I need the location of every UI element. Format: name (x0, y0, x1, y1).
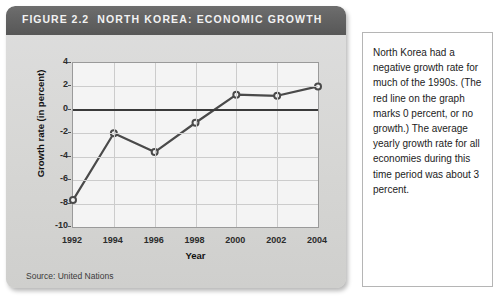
y-tick-label: -10 (42, 220, 68, 230)
source-note: Source: United Nations (26, 271, 113, 281)
figure-header-bar: FIGURE 2.2NORTH KOREA: ECONOMIC GROWTH (6, 6, 346, 35)
x-tick-label: 2004 (297, 235, 337, 245)
plot-area (72, 62, 319, 228)
y-tick-mark (68, 226, 71, 227)
y-axis-tick-labels: 420-2-4-6-8-10 (36, 62, 68, 228)
data-point-marker (70, 197, 76, 203)
y-tick-mark (68, 132, 71, 133)
y-tick-mark (68, 109, 71, 110)
y-tick-mark (68, 85, 71, 86)
x-tick-label: 1992 (52, 235, 92, 245)
gridline-vertical (114, 63, 115, 227)
x-tick-label: 1996 (134, 235, 174, 245)
gridline-vertical (196, 63, 197, 227)
gridline-vertical (277, 63, 278, 227)
y-tick-mark (68, 156, 71, 157)
y-tick-label: 0 (42, 103, 68, 113)
x-axis-title: Year (72, 250, 319, 261)
y-tick-label: -4 (42, 150, 68, 160)
y-tick-label: 4 (42, 56, 68, 66)
y-tick-label: 2 (42, 79, 68, 89)
figure-title: NORTH KOREA: ECONOMIC GROWTH (97, 13, 322, 25)
figure-card: FIGURE 2.2NORTH KOREA: ECONOMIC GROWTH G… (6, 6, 346, 288)
figure-header-text: FIGURE 2.2NORTH KOREA: ECONOMIC GROWTH (22, 13, 322, 25)
x-tick-label: 2002 (256, 235, 296, 245)
x-tick-label: 1998 (175, 235, 215, 245)
y-tick-label: -2 (42, 126, 68, 136)
y-tick-label: -8 (42, 197, 68, 207)
figure-number: FIGURE 2.2 (22, 13, 89, 25)
side-panel-text: North Korea had a negative growth rate f… (373, 45, 485, 197)
gridline-vertical (236, 63, 237, 227)
y-tick-label: -6 (42, 173, 68, 183)
y-tick-mark (68, 62, 71, 63)
side-panel: North Korea had a negative growth rate f… (362, 32, 493, 287)
x-tick-label: 2000 (215, 235, 255, 245)
zero-reference-line (73, 109, 318, 111)
chart: Growth rate (in percent) 420-2-4-6-8-10 … (6, 35, 346, 288)
x-tick-label: 1994 (93, 235, 133, 245)
gridline-vertical (155, 63, 156, 227)
y-tick-mark (68, 179, 71, 180)
